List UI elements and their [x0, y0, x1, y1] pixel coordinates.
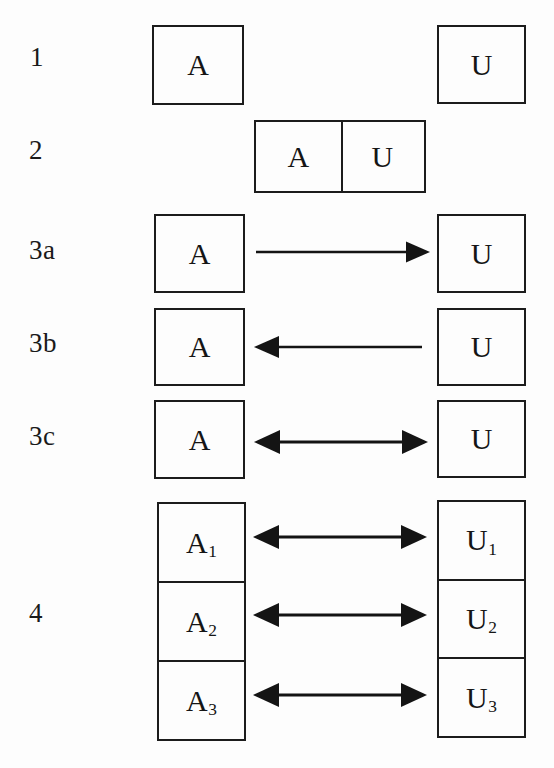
arrow-row4-1-both — [251, 523, 429, 551]
arrow-row4-2-both — [251, 601, 429, 629]
box-row3c-u: U — [437, 400, 526, 478]
box-label-row1-u: U — [471, 50, 493, 80]
box-label-row4-u1: U1 — [466, 525, 497, 555]
arrow-row3b-left — [252, 333, 427, 361]
box-row2-merged: A U — [254, 120, 426, 193]
box-row2-cell-a: A — [256, 122, 341, 191]
box-row3b-u: U — [437, 308, 526, 386]
box-row3b-a: A — [154, 308, 245, 386]
box-label-row1-a: A — [187, 50, 209, 80]
stack-cell-a2: A2 — [159, 583, 244, 662]
box-row3a-u: U — [437, 214, 526, 293]
box-row1-u: U — [437, 25, 526, 104]
box-label-row2-a: A — [288, 142, 310, 172]
row-label-2: 2 — [29, 137, 43, 164]
box-row3a-a: A — [154, 214, 245, 293]
arrow-row3a-right — [254, 238, 434, 266]
box-row1-a: A — [152, 25, 244, 105]
arrow-row4-3-both — [251, 681, 429, 709]
figure-canvas: 1 A U 2 A U 3a A U 3b A U 3c — [0, 0, 554, 768]
box-label-row3a-a: A — [189, 239, 211, 269]
box-label-row3b-a: A — [189, 332, 211, 362]
row-label-4: 4 — [29, 600, 43, 627]
box-label-row3b-u: U — [471, 332, 493, 362]
box-label-row4-u2: U2 — [466, 604, 497, 634]
row-label-3b: 3b — [29, 330, 57, 357]
stack-cell-u1: U1 — [439, 502, 524, 581]
row-label-3a: 3a — [29, 237, 55, 264]
box-label-row4-u3: U3 — [466, 683, 497, 713]
box-row3c-a: A — [154, 400, 245, 479]
arrow-row3c-both — [252, 428, 430, 456]
box-label-row3c-a: A — [189, 425, 211, 455]
box-label-row4-a2: A2 — [186, 607, 217, 637]
box-label-row4-a1: A1 — [186, 528, 217, 558]
stack-row4-a: A1 A2 A3 — [157, 502, 246, 741]
stack-cell-a3: A3 — [159, 662, 244, 739]
row-label-3c: 3c — [29, 423, 55, 450]
stack-cell-a1: A1 — [159, 504, 244, 583]
box-label-row2-u: U — [372, 142, 394, 172]
stack-cell-u2: U2 — [439, 581, 524, 660]
box-label-row4-a3: A3 — [186, 686, 217, 716]
box-label-row3c-u: U — [471, 424, 493, 454]
box-row2-divider — [341, 120, 343, 193]
stack-cell-u3: U3 — [439, 659, 524, 736]
box-label-row3a-u: U — [471, 239, 493, 269]
box-row2-cell-u: U — [341, 122, 424, 191]
row-label-1: 1 — [30, 44, 44, 71]
stack-row4-u: U1 U2 U3 — [437, 500, 526, 738]
